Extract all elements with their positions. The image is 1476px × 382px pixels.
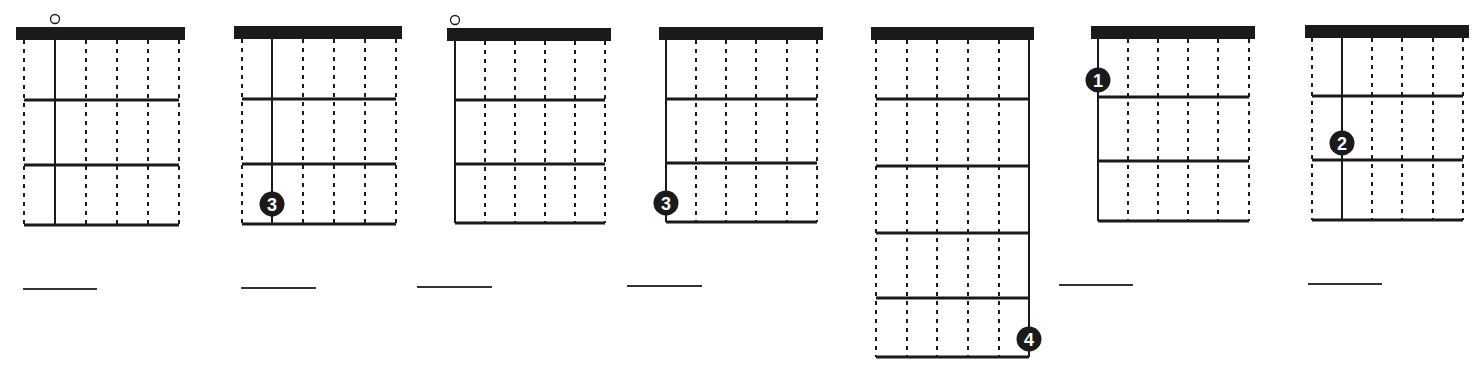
finger-dot: 3 (260, 192, 285, 217)
fretboard-diagrams-canvas: 33412 (0, 0, 1476, 382)
nut-bar (659, 27, 823, 40)
finger-dot: 1 (1086, 68, 1111, 93)
chord-worksheet: 33412 (0, 0, 1476, 382)
finger-number: 1 (1093, 71, 1103, 91)
nut-bar (1091, 26, 1255, 39)
finger-number: 2 (1337, 134, 1347, 154)
chord-diagram: 3 (234, 26, 402, 288)
chord-diagram (16, 15, 185, 290)
open-string-icon (51, 15, 60, 24)
nut-bar (447, 28, 611, 41)
chord-diagram: 4 (871, 27, 1042, 357)
nut-bar (16, 27, 185, 40)
finger-dot: 3 (654, 191, 679, 216)
open-string-icon (451, 16, 460, 25)
finger-number: 4 (1024, 330, 1034, 350)
nut-bar (234, 26, 402, 39)
chord-diagram (417, 16, 611, 288)
nut-bar (1305, 25, 1469, 38)
finger-dot: 2 (1330, 131, 1355, 156)
chord-diagram: 2 (1305, 25, 1469, 284)
nut-bar (871, 27, 1034, 40)
finger-dot: 4 (1017, 327, 1042, 352)
chord-diagram: 1 (1059, 26, 1255, 285)
finger-number: 3 (267, 195, 277, 215)
finger-number: 3 (661, 194, 671, 214)
chord-diagram: 3 (627, 27, 823, 286)
